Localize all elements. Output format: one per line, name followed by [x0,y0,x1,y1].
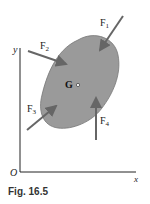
force-label-f3: F3 [27,103,37,116]
rigid-body [41,36,119,129]
center-of-mass-point [76,83,79,86]
center-of-mass-label: G [65,79,73,90]
force-label-f2: F2 [40,40,50,53]
origin-label: O [10,167,17,178]
rigid-body-diagram: y x O G F1 F2 F3 F4 [0,0,150,204]
figure-caption: Fig. 16.5 [8,186,48,197]
force-label-f1: F1 [100,17,110,30]
x-axis-label: x [133,174,138,184]
force-label-f4: F4 [100,115,110,128]
y-axis-label: y [12,44,18,55]
